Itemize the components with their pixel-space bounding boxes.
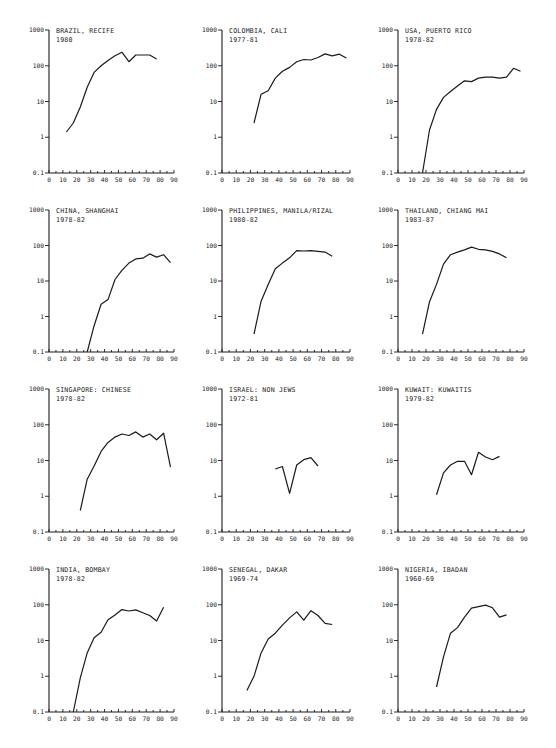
x-tick-label: 60 <box>129 355 137 362</box>
x-tick-label: 30 <box>87 535 95 542</box>
x-tick-label: 50 <box>289 715 297 722</box>
x-tick-label: 70 <box>318 715 326 722</box>
x-tick-label: 90 <box>520 715 528 722</box>
x-tick-label: 40 <box>450 355 458 362</box>
panel-title: BRAZIL, RECIFE <box>56 27 114 35</box>
y-tick-label: 0.1 <box>206 528 217 535</box>
panel-title: KUWAIT: KUWAITIS <box>405 386 472 394</box>
y-tick-label: 1 <box>213 672 217 679</box>
y-tick-label: 10 <box>210 98 218 105</box>
y-tick-label: 1000 <box>378 565 393 572</box>
x-tick-label: 20 <box>73 355 81 362</box>
panel-title: SINGAPORE: CHINESE <box>56 386 131 394</box>
x-tick-label: 10 <box>232 535 240 542</box>
x-tick-label: 90 <box>346 715 354 722</box>
y-tick-label: 100 <box>33 601 44 608</box>
x-tick-label: 20 <box>422 715 430 722</box>
y-tick-label: 0.1 <box>33 528 44 535</box>
x-tick-label: 90 <box>520 355 528 362</box>
y-tick-label: 0.1 <box>382 169 393 176</box>
y-tick-label: 0.1 <box>206 348 217 355</box>
chart-panel: 10001001010.10102030405060708090THAILAND… <box>378 206 528 361</box>
y-tick-label: 100 <box>382 242 393 249</box>
y-tick-label: 10 <box>37 277 45 284</box>
chart-panel: 10001001010.10102030405060708090USA, PUE… <box>378 26 528 182</box>
y-tick-label: 1000 <box>378 385 393 392</box>
panel-title: SENEGAL, DAKAR <box>229 566 287 574</box>
x-tick-label: 60 <box>129 535 137 542</box>
x-tick-label: 80 <box>332 355 340 362</box>
x-tick-label: 20 <box>422 176 430 183</box>
x-tick-label: 70 <box>318 355 326 362</box>
x-tick-label: 10 <box>232 176 240 183</box>
y-tick-label: 1000 <box>29 565 44 572</box>
x-tick-label: 10 <box>59 715 67 722</box>
y-tick-label: 0.1 <box>206 708 217 715</box>
chart-panel: 10001001010.10102030405060708090SENEGAL,… <box>202 565 354 721</box>
panel-period: 1978-82 <box>56 395 85 403</box>
x-tick-label: 70 <box>318 535 326 542</box>
x-tick-label: 30 <box>261 535 269 542</box>
y-tick-label: 1000 <box>378 26 393 33</box>
chart-panel: 10001001010.10102030405060708090ISRAEL: … <box>202 385 354 541</box>
x-tick-label: 30 <box>436 176 444 183</box>
x-tick-label: 50 <box>289 535 297 542</box>
y-tick-label: 1 <box>40 313 44 320</box>
x-tick-label: 30 <box>261 176 269 183</box>
y-tick-label: 100 <box>33 242 44 249</box>
y-tick-label: 10 <box>386 277 394 284</box>
y-tick-label: 10 <box>386 637 394 644</box>
y-tick-label: 1000 <box>29 26 44 33</box>
x-tick-label: 40 <box>275 355 283 362</box>
y-tick-label: 1000 <box>202 206 217 213</box>
x-tick-label: 80 <box>332 535 340 542</box>
x-tick-label: 20 <box>247 535 255 542</box>
x-tick-label: 70 <box>318 176 326 183</box>
y-tick-label: 1 <box>389 133 393 140</box>
incidence-line <box>247 611 332 691</box>
x-tick-label: 10 <box>59 355 67 362</box>
x-tick-label: 90 <box>346 535 354 542</box>
x-tick-label: 70 <box>142 176 150 183</box>
x-tick-label: 30 <box>87 715 95 722</box>
y-tick-label: 1 <box>40 492 44 499</box>
panel-period: 1978-82 <box>56 575 85 583</box>
x-tick-label: 80 <box>506 535 514 542</box>
x-tick-label: 40 <box>275 715 283 722</box>
panel-period: 1980-82 <box>229 216 258 224</box>
y-tick-label: 10 <box>37 98 45 105</box>
y-tick-label: 1 <box>389 492 393 499</box>
x-tick-label: 40 <box>450 715 458 722</box>
x-tick-label: 20 <box>247 355 255 362</box>
x-tick-label: 40 <box>101 176 109 183</box>
y-tick-label: 0.1 <box>206 169 217 176</box>
x-tick-label: 0 <box>47 355 51 362</box>
chart-panel: 10001001010.10102030405060708090INDIA, B… <box>29 565 178 721</box>
y-tick-label: 1000 <box>202 385 217 392</box>
incidence-line <box>437 605 507 687</box>
x-tick-label: 30 <box>261 355 269 362</box>
y-tick-label: 1000 <box>29 206 44 213</box>
x-tick-label: 90 <box>170 355 178 362</box>
x-tick-label: 50 <box>289 355 297 362</box>
y-tick-label: 100 <box>382 62 393 69</box>
x-tick-label: 80 <box>506 715 514 722</box>
x-tick-label: 50 <box>289 176 297 183</box>
chart-panel: 10001001010.10102030405060708090CHINA, S… <box>29 206 178 361</box>
x-tick-label: 40 <box>275 176 283 183</box>
x-tick-label: 90 <box>170 176 178 183</box>
x-tick-label: 10 <box>408 355 416 362</box>
incidence-line <box>423 247 507 334</box>
x-tick-label: 0 <box>220 355 224 362</box>
y-tick-label: 1 <box>389 672 393 679</box>
x-tick-label: 80 <box>156 355 164 362</box>
y-tick-label: 100 <box>206 242 217 249</box>
y-tick-label: 10 <box>37 637 45 644</box>
incidence-line <box>254 54 346 123</box>
x-tick-label: 70 <box>492 176 500 183</box>
x-tick-label: 10 <box>408 176 416 183</box>
panel-period: 1978-82 <box>56 216 85 224</box>
x-tick-label: 60 <box>478 715 486 722</box>
x-tick-label: 70 <box>142 355 150 362</box>
x-tick-label: 60 <box>129 715 137 722</box>
